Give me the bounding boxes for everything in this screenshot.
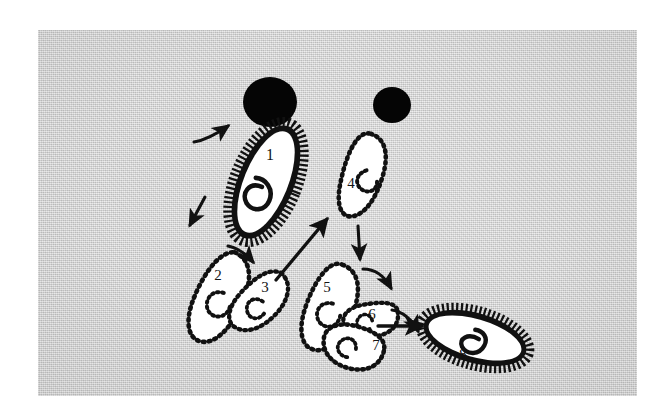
figure-drawing: 1 2 3 4 5 [38,30,637,396]
arrow-1-to-2 [190,197,205,225]
cell-5-label: 5 [323,279,331,295]
dark-bodies-group [243,77,411,127]
dark-body-small [373,87,411,123]
cell-4 [332,132,392,218]
cell-3-label: 3 [261,279,269,295]
arrow-5-to-6 [363,269,391,288]
figure-root: 1 2 3 4 5 [0,0,666,418]
arrow-into-1 [194,126,228,142]
cell-6-label: 6 [368,306,376,322]
cell-1 [215,113,317,250]
arrow-4-to-5 [358,226,360,259]
micrograph-plate: 1 2 3 4 5 [38,30,637,396]
cell-8 [415,298,535,378]
cell-2-label: 2 [214,267,222,283]
cell-1-label: 1 [266,146,274,163]
cell-7-label: 7 [372,337,380,353]
cell-8-label: 8 [459,346,467,363]
arrow-3-to-4 [276,219,327,280]
cell-4-label: 4 [347,175,355,191]
